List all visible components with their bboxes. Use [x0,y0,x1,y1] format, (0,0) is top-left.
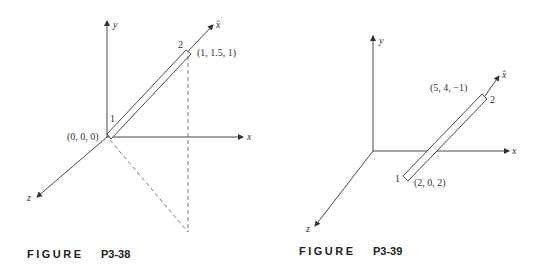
node-2-label: 2 [490,94,495,105]
figures-canvas: y x z x̂ 1 (0, 0, 0) 2 (1, 1.5, 1) FIGUR… [0,0,536,269]
x-axis-label: x [246,131,252,142]
node-1-coords: (0, 0, 0) [67,131,99,143]
bar-element [107,50,191,139]
local-x-axis-label: x̂ [501,69,507,80]
figure-caption-word: FIGURE [299,245,356,257]
figure-caption-word: FIGURE [27,248,84,260]
local-x-axis-label: x̂ [215,19,221,30]
node-1-coords: (2, 0, 2) [414,177,446,189]
node-2-label: 2 [178,39,183,50]
z-axis-label: z [305,223,310,234]
y-axis-label: y [112,19,118,30]
z-axis [315,151,373,226]
x-axis-label: x [511,145,517,156]
z-axis-label: z [26,192,31,203]
z-axis [37,137,107,197]
node-2-coords: (1, 1.5, 1) [197,47,236,59]
projection-diagonal [110,140,188,232]
figure-p3-39: y x z x̂ 1 (2, 0, 2) 2 (5, 4, −1) FIGURE… [299,35,517,257]
bar-element [403,94,487,181]
local-x-axis [485,76,499,96]
node-2-coords: (5, 4, −1) [430,82,467,94]
node-1-label: 1 [395,173,400,184]
figure-caption-number: P3-38 [101,248,130,260]
figure-p3-38: y x z x̂ 1 (0, 0, 0) 2 (1, 1.5, 1) FIGUR… [26,19,252,260]
node-1-label: 1 [110,113,115,124]
figure-caption-number: P3-39 [373,245,402,257]
y-axis-label: y [378,35,384,46]
